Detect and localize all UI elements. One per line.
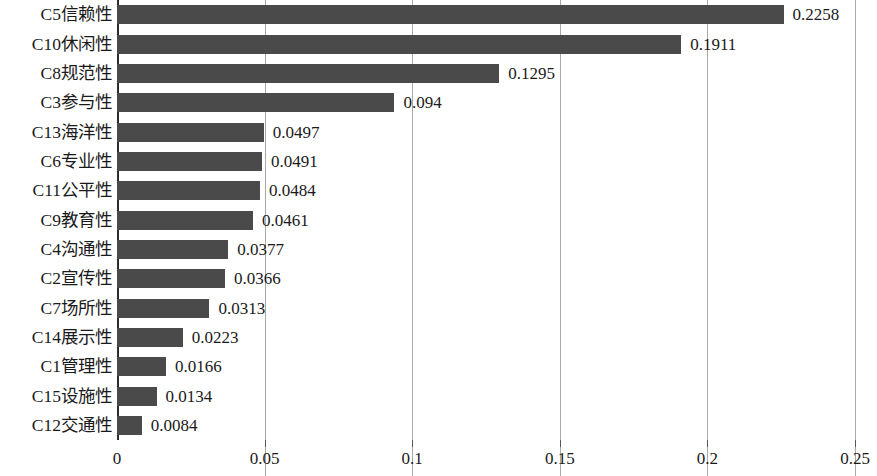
bar-value-label: 0.0166 (175, 357, 222, 376)
bar-value-label: 0.094 (403, 93, 441, 112)
bar-value-label: 0.0313 (218, 299, 265, 318)
x-tick-mark (855, 440, 856, 447)
bar-row: 0.0366 (117, 269, 855, 288)
category-label: C1管理性 (41, 357, 112, 376)
x-tick-label: 0.2 (697, 449, 718, 469)
category-label: C13海洋性 (32, 123, 112, 142)
x-tick-label: 0.1 (402, 449, 423, 469)
bar[interactable] (117, 152, 262, 171)
bar-value-label: 0.0461 (262, 211, 309, 230)
category-label: C2宣传性 (41, 269, 112, 288)
bar-row: 0.0377 (117, 240, 855, 259)
bar[interactable] (117, 181, 260, 200)
bar[interactable] (117, 416, 142, 435)
bar-value-label: 0.2258 (793, 5, 840, 24)
bar-value-label: 0.0491 (271, 152, 318, 171)
category-label: C8规范性 (41, 64, 112, 83)
bar-row: 0.0134 (117, 387, 855, 406)
x-tick-label: 0.05 (250, 449, 280, 469)
x-tick-label: 0 (113, 449, 122, 469)
bar-row: 0.1911 (117, 35, 855, 54)
bar[interactable] (117, 240, 228, 259)
bar-value-label: 0.1295 (508, 64, 555, 83)
category-label: C12交通性 (32, 416, 112, 435)
bar-row: 0.0084 (117, 416, 855, 435)
bar-value-label: 0.1911 (690, 35, 736, 54)
bar[interactable] (117, 269, 225, 288)
category-label: C11公平性 (32, 181, 112, 200)
category-label: C15设施性 (32, 387, 112, 406)
category-label: C5信赖性 (41, 5, 112, 24)
bar-value-label: 0.0484 (269, 181, 316, 200)
gridline-0.25 (855, 0, 856, 476)
bar-row: 0.0491 (117, 152, 855, 171)
bars-layer: 0.22580.19110.12950.0940.04970.04910.048… (117, 0, 855, 440)
bar-value-label: 0.0134 (166, 387, 213, 406)
bar[interactable] (117, 357, 166, 376)
bar-row: 0.0484 (117, 181, 855, 200)
x-tick-mark (265, 440, 266, 447)
x-tick-mark (412, 440, 413, 447)
category-axis-labels: C5信赖性C10休闲性C8规范性C3参与性C13海洋性C6专业性C11公平性C9… (0, 0, 112, 440)
bar[interactable] (117, 211, 253, 230)
bar-row: 0.0497 (117, 123, 855, 142)
x-tick-mark (560, 440, 561, 447)
category-label: C4沟通性 (41, 240, 112, 259)
category-label: C10休闲性 (32, 35, 112, 54)
bar[interactable] (117, 123, 264, 142)
horizontal-bar-chart: C5信赖性C10休闲性C8规范性C3参与性C13海洋性C6专业性C11公平性C9… (0, 0, 877, 476)
bar-row: 0.0223 (117, 328, 855, 347)
category-label: C6专业性 (41, 152, 112, 171)
bar[interactable] (117, 328, 183, 347)
bar-row: 0.2258 (117, 5, 855, 24)
category-label: C7场所性 (41, 299, 112, 318)
bar-value-label: 0.0366 (234, 269, 281, 288)
bar[interactable] (117, 387, 157, 406)
x-tick-label: 0.25 (840, 449, 870, 469)
bar-value-label: 0.0084 (151, 416, 198, 435)
category-label: C9教育性 (41, 211, 112, 230)
bar-value-label: 0.0497 (273, 123, 320, 142)
bar[interactable] (117, 35, 681, 54)
bar[interactable] (117, 5, 784, 24)
bar-row: 0.0313 (117, 299, 855, 318)
bar[interactable] (117, 64, 499, 83)
bar[interactable] (117, 299, 209, 318)
category-label: C14展示性 (32, 328, 112, 347)
bar-row: 0.094 (117, 93, 855, 112)
bar-value-label: 0.0223 (192, 328, 239, 347)
bar-row: 0.1295 (117, 64, 855, 83)
x-tick-label: 0.15 (545, 449, 575, 469)
bar-row: 0.0461 (117, 211, 855, 230)
bar-value-label: 0.0377 (237, 240, 284, 259)
x-tick-mark (707, 440, 708, 447)
category-label: C3参与性 (41, 93, 112, 112)
bar[interactable] (117, 93, 394, 112)
bar-row: 0.0166 (117, 357, 855, 376)
